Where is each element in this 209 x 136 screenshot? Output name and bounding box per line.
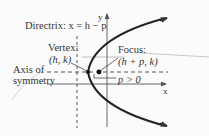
vertex-title-label: Vertex: xyxy=(48,42,78,53)
x-axis-label: x xyxy=(163,86,168,97)
focus-coords-label: (h + p, k) xyxy=(118,56,158,67)
p-distance-bracket xyxy=(94,74,116,78)
vertex-coords-label: (h, k) xyxy=(49,54,71,65)
axis-of-symmetry-label-line1: Axis of xyxy=(13,64,44,75)
p-condition-label: p > 0 xyxy=(118,74,141,85)
y-axis-label: y xyxy=(98,12,103,23)
focus-leader xyxy=(100,58,118,71)
vertex-leader xyxy=(71,63,87,71)
directrix-label: Directrix: x = h − p xyxy=(25,20,107,31)
focus-point xyxy=(97,70,102,75)
parabola-diagram: Directrix: x = h − p y Vertex: (h, k) Fo… xyxy=(0,0,209,136)
focus-title-label: Focus: xyxy=(118,44,146,55)
vertex-point xyxy=(86,70,90,74)
axis-of-symmetry-label-line2: symmetry xyxy=(13,75,55,86)
